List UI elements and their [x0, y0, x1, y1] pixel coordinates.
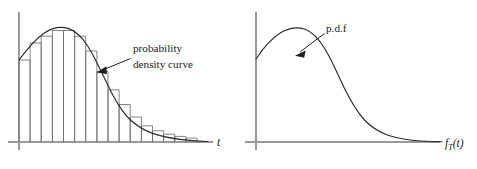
panel-histogram-density: probability density curve t — [0, 0, 240, 169]
right-x-axis-label-tail: (t) — [453, 137, 464, 150]
bar — [86, 51, 97, 142]
bar — [19, 60, 30, 142]
bar — [108, 90, 119, 142]
bar — [75, 36, 86, 142]
bar — [64, 31, 75, 143]
left-annotation-line1: probability — [133, 42, 182, 54]
bar — [141, 126, 152, 142]
right-annotation-line1: p.d.f — [326, 22, 347, 34]
left-x-axis-label: t — [217, 136, 221, 148]
right-annotation-leader — [295, 34, 325, 58]
bar — [119, 105, 130, 143]
bar — [41, 36, 52, 142]
panel-pdf-curve: p.d.f fT(t) — [237, 0, 477, 169]
left-annotation-leader — [97, 59, 131, 74]
right-density-curve — [256, 28, 442, 142]
right-x-axis-label: fT(t) — [445, 137, 464, 152]
bar — [30, 43, 41, 142]
left-annotation-line2: density curve — [133, 58, 193, 70]
svg-text:fT(t): fT(t) — [445, 137, 464, 152]
bar — [52, 31, 63, 143]
statistics-figure: probability density curve t p.d.f fT(t) — [0, 0, 477, 169]
